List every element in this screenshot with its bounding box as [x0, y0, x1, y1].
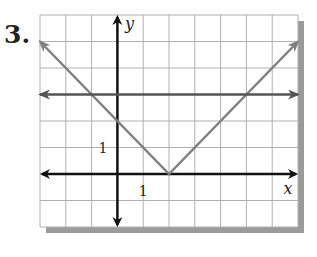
chart: 11xy — [0, 0, 317, 257]
y-axis-label: y — [124, 14, 135, 33]
x-tick-label: 1 — [139, 183, 148, 199]
x-axis-label: x — [283, 179, 292, 198]
y-tick-label: 1 — [98, 140, 107, 156]
